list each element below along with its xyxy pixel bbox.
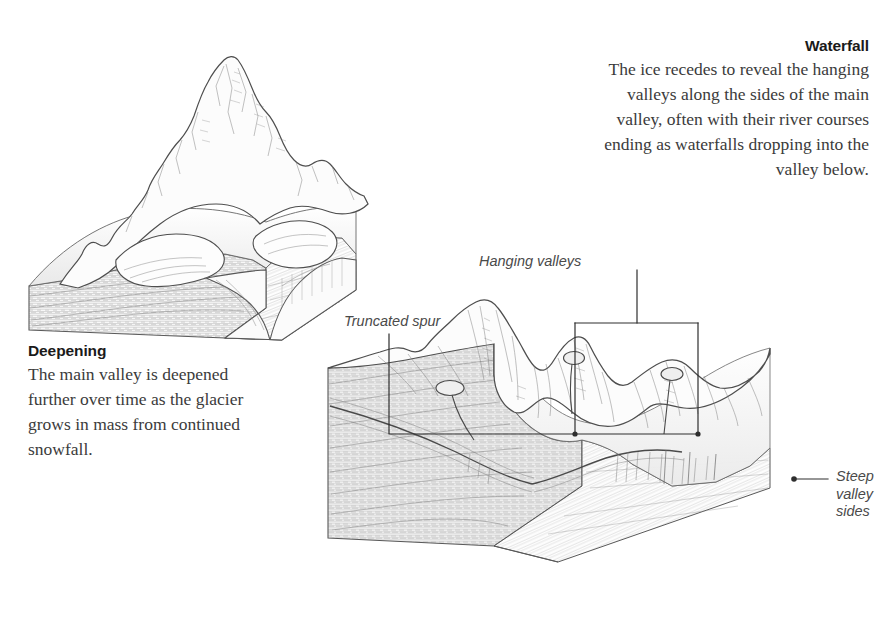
text-block-waterfall: Waterfall The ice recedes to reveal the … bbox=[604, 36, 869, 182]
text-block-deepening: Deepening The main valley is deepened fu… bbox=[28, 341, 278, 462]
figure-canvas: Truncated spur Hanging valleys Steep val… bbox=[0, 0, 883, 637]
callout-hanging-valleys: Hanging valleys bbox=[479, 253, 581, 271]
deepening-body: The main valley is deepened further over… bbox=[28, 362, 278, 461]
waterfall-body: The ice recedes to reveal the hanging va… bbox=[604, 57, 869, 181]
deepening-heading: Deepening bbox=[28, 341, 278, 360]
waterfall-heading: Waterfall bbox=[604, 36, 869, 55]
callout-truncated-spur: Truncated spur bbox=[344, 313, 440, 331]
callout-steep-valley-sides: Steep valley sides bbox=[836, 468, 874, 521]
